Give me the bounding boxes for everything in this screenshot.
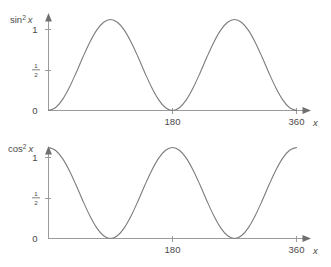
y-tick-label-0: 0 bbox=[32, 105, 37, 116]
y-tick-label-1: 1 bbox=[32, 24, 37, 35]
y-tick-label-half-numerator: 1 bbox=[34, 190, 38, 197]
curve-sin-squared bbox=[49, 20, 297, 111]
y-axis-arrowhead bbox=[45, 13, 52, 22]
y-tick-label-half-denominator: 2 bbox=[34, 199, 38, 206]
y-axis-title: cos2x bbox=[8, 143, 34, 155]
x-axis-arrowhead bbox=[303, 107, 312, 114]
chart-cos-squared: cos2x 1 1 2 0 180 360 x bbox=[0, 133, 331, 266]
y-tick-label-0: 0 bbox=[32, 233, 37, 244]
y-tick-label-1: 1 bbox=[32, 152, 37, 163]
y-tick-label-half: 1 2 bbox=[32, 62, 40, 78]
x-axis-arrowhead bbox=[303, 235, 312, 242]
y-tick-label-half: 1 2 bbox=[32, 190, 40, 206]
x-axis-title: x bbox=[312, 117, 319, 128]
x-tick-label-360: 360 bbox=[289, 116, 305, 127]
y-tick-label-half-denominator: 2 bbox=[34, 71, 38, 78]
y-tick-label-half-numerator: 1 bbox=[34, 62, 38, 69]
y-axis-title-base: cos bbox=[8, 143, 23, 154]
chart-sin-squared: sin2x 1 1 2 0 180 360 x bbox=[0, 0, 331, 133]
x-axis-title: x bbox=[312, 245, 319, 256]
x-tick-label-360: 360 bbox=[289, 244, 305, 255]
x-tick-label-180: 180 bbox=[165, 244, 181, 255]
y-axis-title: sin2x bbox=[10, 14, 34, 26]
curve-cos-squared bbox=[49, 148, 297, 239]
y-axis-title-exponent: 2 bbox=[23, 143, 27, 150]
x-tick-label-180: 180 bbox=[165, 116, 181, 127]
y-axis-title-exponent: 2 bbox=[22, 14, 26, 21]
y-axis-title-base: sin bbox=[10, 14, 22, 25]
